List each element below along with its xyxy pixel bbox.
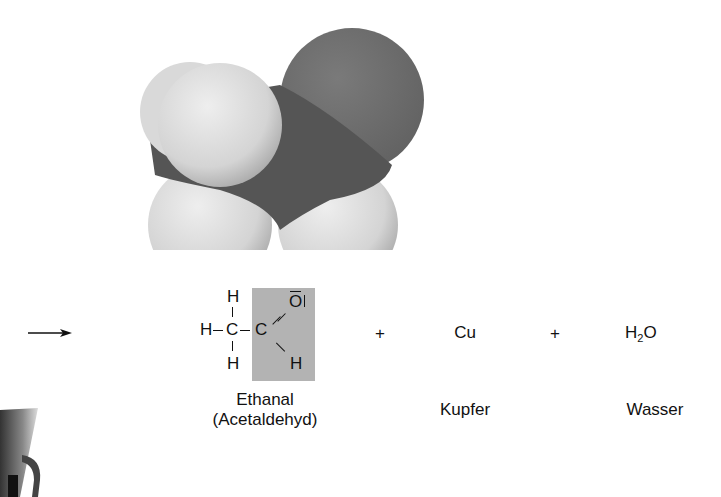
atom-c2: C — [255, 321, 267, 338]
lab-equipment-image — [0, 400, 45, 497]
lone-pair-side — [304, 295, 305, 307]
reaction-arrow-icon — [28, 327, 74, 339]
ethanal-space-filling-model — [130, 0, 430, 250]
bond — [213, 330, 223, 331]
hydrogen-atom-front — [158, 63, 282, 187]
atom-h-top: H — [227, 288, 239, 305]
ethanal-structural-formula: H H C C H O H — [200, 285, 330, 390]
bond — [240, 330, 250, 331]
bond — [232, 341, 233, 351]
plus-sign-1: + — [375, 324, 385, 344]
water-name: Wasser — [610, 400, 700, 420]
atom-h-bottom: H — [227, 355, 239, 372]
plus-sign-2: + — [550, 324, 560, 344]
lone-pair-top — [290, 291, 301, 292]
atom-h-left: H — [200, 321, 212, 338]
water-formula: H2O — [625, 323, 657, 348]
bond — [232, 307, 233, 317]
atom-c1: C — [226, 321, 238, 338]
atom-h-aldehyde: H — [290, 355, 302, 372]
copper-formula: Cu — [440, 323, 490, 343]
ethanal-synonym: (Acetaldehyd) — [190, 410, 340, 430]
atom-o: O — [289, 293, 302, 310]
copper-name: Kupfer — [425, 400, 505, 420]
water-o: O — [643, 323, 656, 342]
ethanal-name: Ethanal — [200, 390, 330, 410]
water-h: H — [625, 323, 637, 342]
